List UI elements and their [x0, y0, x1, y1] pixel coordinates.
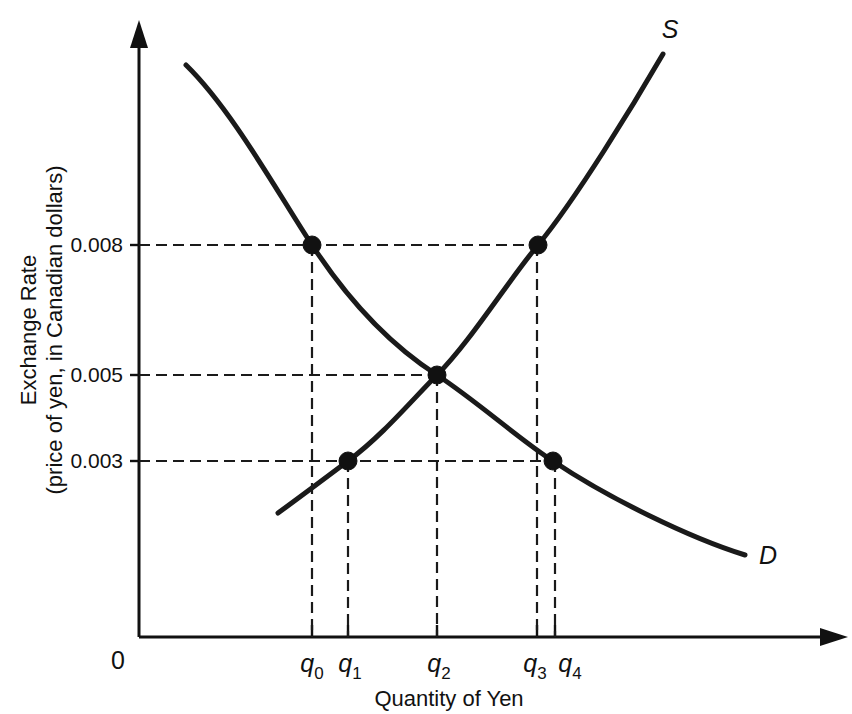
x-tick-label-q2: q2 — [427, 649, 450, 683]
data-point-equilibrium — [428, 366, 446, 384]
x-tick-label-q4-base: q — [558, 649, 572, 677]
y-tick-label-0003: 0.003 — [70, 449, 123, 472]
y-axis-title-line2: (price of yen, in Canadian dollars) — [42, 166, 67, 495]
demand-curve — [186, 65, 745, 555]
data-point-supply-at-0003 — [339, 452, 357, 470]
x-axis-arrow-icon — [820, 628, 848, 646]
y-axis-title-line1: Exchange Rate — [16, 255, 41, 405]
data-point-demand-at-0008 — [303, 236, 321, 254]
y-tick-labels-group: 0.008 0.005 0.003 — [70, 233, 123, 472]
x-tick-label-q3-base: q — [523, 649, 537, 677]
y-axis-arrow-icon — [130, 20, 148, 48]
x-tick-label-q1: q1 — [338, 649, 361, 683]
supply-curve-label: S — [662, 15, 679, 43]
x-tick-label-q2-base: q — [427, 649, 441, 677]
data-point-supply-at-0008 — [529, 236, 547, 254]
data-point-demand-at-0003 — [544, 452, 562, 470]
supply-curve — [278, 54, 663, 513]
x-tick-label-q4: q4 — [558, 649, 581, 683]
vertical-guide-lines-group — [312, 245, 555, 637]
y-tick-label-0005: 0.005 — [70, 363, 123, 386]
origin-label: 0 — [111, 646, 125, 674]
x-tick-label-q0-base: q — [300, 649, 314, 677]
x-tick-label-q4-subscript: 4 — [572, 664, 581, 683]
chart-canvas: 0.008 0.005 0.003 0 q0 q1 q2 q3 q4 S — [0, 0, 852, 714]
y-axis-title-group: Exchange Rate (price of yen, in Canadian… — [16, 166, 67, 495]
demand-curve-label: D — [759, 541, 777, 569]
y-tick-label-0008: 0.008 — [70, 233, 123, 256]
data-points-group — [303, 236, 562, 470]
x-tick-label-q0-subscript: 0 — [314, 664, 323, 683]
supply-demand-figure: 0.008 0.005 0.003 0 q0 q1 q2 q3 q4 S — [0, 0, 852, 714]
x-tick-label-q1-base: q — [338, 649, 352, 677]
x-tick-label-q3: q3 — [523, 649, 546, 683]
x-axis-title: Quantity of Yen — [374, 686, 523, 711]
x-tick-labels-group: q0 q1 q2 q3 q4 — [300, 649, 581, 683]
x-tick-label-q0: q0 — [300, 649, 323, 683]
x-tick-label-q2-subscript: 2 — [441, 664, 450, 683]
x-tick-label-q1-subscript: 1 — [352, 664, 361, 683]
x-tick-label-q3-subscript: 3 — [537, 664, 546, 683]
horizontal-guide-lines-group — [139, 245, 553, 461]
